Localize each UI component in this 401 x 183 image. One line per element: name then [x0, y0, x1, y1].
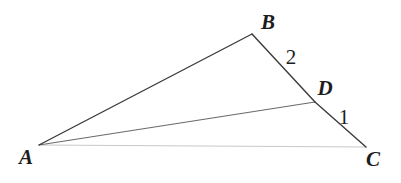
vertex-label-b: B: [261, 12, 275, 33]
vertex-label-c: C: [366, 149, 380, 170]
triangle-diagram-canvas: [0, 0, 401, 183]
angle-label-2: 2: [286, 47, 297, 68]
geometry-figure: A B C D 2 1: [0, 0, 401, 183]
angle-label-1: 1: [339, 107, 350, 128]
segment-ac: [39, 145, 366, 147]
vertex-label-d: D: [317, 78, 332, 99]
segment-bd: [252, 34, 315, 102]
vertex-label-a: A: [19, 147, 33, 168]
